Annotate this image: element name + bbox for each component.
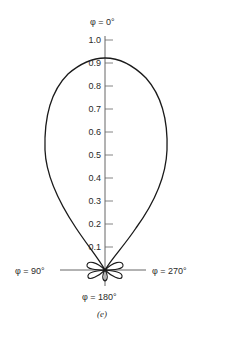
main-lobe <box>45 58 167 270</box>
tick-label-0-4: 0.4 <box>77 173 101 183</box>
tick-label-0-9: 0.9 <box>77 58 101 68</box>
angle-label-270: φ = 270° <box>152 266 187 276</box>
tick-label-0-6: 0.6 <box>77 127 101 137</box>
pattern-plot <box>0 0 249 339</box>
tick-label-0-2: 0.2 <box>77 219 101 229</box>
tick-label-1-0: 1.0 <box>77 35 101 45</box>
figure-caption: (e) <box>97 309 107 319</box>
tick-label-0-5: 0.5 <box>77 150 101 160</box>
axis-ticks <box>105 40 113 247</box>
tick-label-0-3: 0.3 <box>77 196 101 206</box>
tick-label-0-1: 0.1 <box>77 242 101 252</box>
angle-label-90: φ = 90° <box>15 266 45 276</box>
angle-label-180: φ = 180° <box>82 292 117 302</box>
tick-label-0-8: 0.8 <box>77 81 101 91</box>
radiation-pattern-figure: φ = 0° φ = 90° φ = 270° φ = 180° 1.0 0.9… <box>0 0 249 339</box>
tick-label-0-7: 0.7 <box>77 104 101 114</box>
angle-label-0: φ = 0° <box>90 17 115 27</box>
